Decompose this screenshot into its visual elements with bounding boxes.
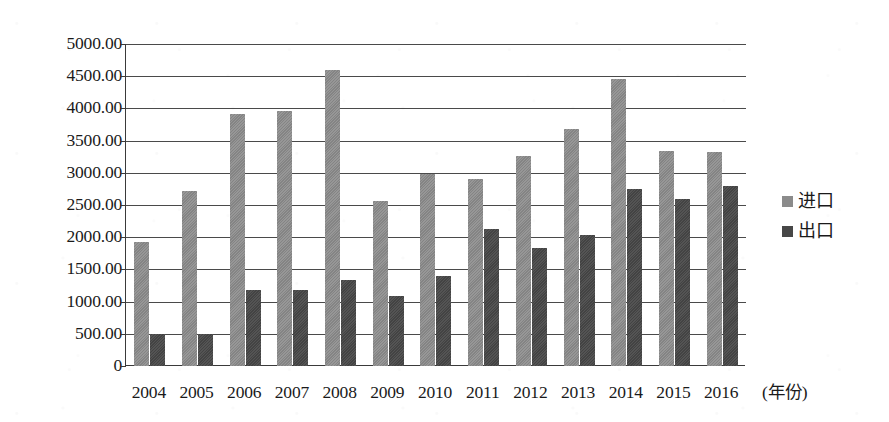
bar-group (555, 44, 603, 366)
bar-group (698, 44, 746, 366)
bar-chart-figure: 5000.004500.004000.003500.003000.002500.… (0, 0, 889, 422)
y-tick-label: 2000.00 (30, 228, 122, 246)
bar-group (126, 44, 174, 366)
legend-label: 进口 (798, 192, 834, 210)
bar-2010-进口 (420, 174, 435, 366)
legend-item-出口[interactable]: 出口 (782, 216, 882, 246)
bars-layer (126, 44, 746, 366)
x-tick-label: 2016 (697, 382, 745, 402)
chart-legend: 进口出口 (782, 186, 882, 246)
bar-2007-进口 (277, 111, 292, 366)
y-tick-label: 3000.00 (30, 164, 122, 182)
bar-2007-出口 (293, 290, 308, 366)
y-tick-label: 1500.00 (30, 260, 122, 278)
legend-swatch-icon (782, 196, 793, 207)
bar-group (317, 44, 365, 366)
legend-label: 出口 (798, 222, 834, 240)
bar-2010-出口 (436, 276, 451, 366)
plot-area (125, 44, 745, 366)
bar-2012-出口 (532, 248, 547, 366)
x-tick-label: 2008 (316, 382, 364, 402)
bar-group (508, 44, 556, 366)
bar-2013-进口 (564, 129, 579, 366)
y-tick-label: 0 (30, 357, 122, 375)
bar-2011-进口 (468, 179, 483, 366)
bar-2015-进口 (659, 151, 674, 366)
y-tick-label: 500.00 (30, 325, 122, 343)
bar-2006-进口 (230, 114, 245, 366)
bar-2009-进口 (373, 201, 388, 367)
y-tick-label: 5000.00 (30, 35, 122, 53)
y-tick-label: 4500.00 (30, 67, 122, 85)
y-axis-tick-mark (121, 366, 126, 367)
bar-2008-出口 (341, 280, 356, 366)
legend-swatch-icon (782, 226, 793, 237)
bar-2005-进口 (182, 191, 197, 366)
y-tick-label: 4000.00 (30, 99, 122, 117)
bar-group (412, 44, 460, 366)
x-tick-label: 2004 (125, 382, 173, 402)
bar-2008-进口 (325, 70, 340, 366)
bar-group (174, 44, 222, 366)
x-tick-label: 2007 (268, 382, 316, 402)
x-tick-label: 2013 (554, 382, 602, 402)
x-tick-label: 2014 (602, 382, 650, 402)
bar-group (603, 44, 651, 366)
bar-2014-出口 (627, 189, 642, 366)
bar-group (269, 44, 317, 366)
bar-2014-进口 (611, 79, 626, 366)
y-tick-label: 1000.00 (30, 293, 122, 311)
bar-2006-出口 (246, 290, 261, 366)
bar-group (221, 44, 269, 366)
bar-2013-出口 (580, 235, 595, 366)
bar-2016-进口 (707, 152, 722, 366)
y-tick-label: 3500.00 (30, 132, 122, 150)
bar-group (460, 44, 508, 366)
x-axis-tick-labels: 2004200520062007200820092010201120122013… (125, 382, 745, 410)
bar-group (364, 44, 412, 366)
y-tick-label: 2500.00 (30, 196, 122, 214)
x-tick-label: 2011 (459, 382, 507, 402)
x-tick-label: 2010 (411, 382, 459, 402)
x-tick-label: 2015 (650, 382, 698, 402)
bar-group (651, 44, 699, 366)
bar-2009-出口 (389, 296, 404, 366)
bar-2015-出口 (675, 199, 690, 366)
bar-2005-出口 (198, 334, 213, 366)
y-axis-tick-labels: 5000.004500.004000.003500.003000.002500.… (30, 0, 122, 422)
bar-2016-出口 (723, 186, 738, 366)
bar-2004-进口 (134, 242, 149, 366)
bar-2012-进口 (516, 156, 531, 366)
x-tick-label: 2012 (507, 382, 555, 402)
x-axis-unit-label: (年份) (762, 382, 808, 402)
bar-2004-出口 (150, 334, 165, 366)
x-tick-label: 2005 (173, 382, 221, 402)
legend-item-进口[interactable]: 进口 (782, 186, 882, 216)
bar-2011-出口 (484, 229, 499, 366)
x-tick-label: 2006 (220, 382, 268, 402)
x-tick-label: 2009 (363, 382, 411, 402)
